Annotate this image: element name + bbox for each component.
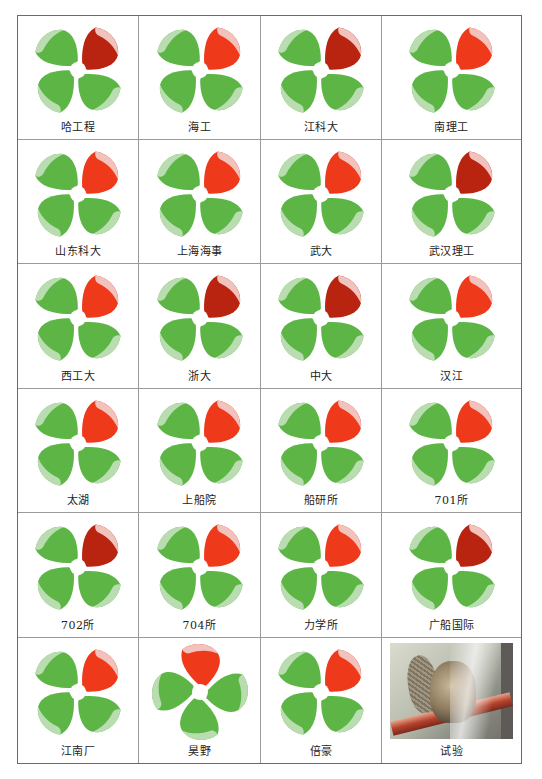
hub-icon	[70, 684, 86, 700]
hub-icon	[444, 559, 460, 575]
cell-label: 广船国际	[382, 616, 521, 632]
grid-cell: 浙大	[139, 264, 261, 389]
hub-icon	[444, 62, 460, 78]
propeller-icon	[269, 20, 373, 120]
hub-icon	[444, 435, 460, 451]
cell-label: 西工大	[18, 367, 138, 383]
hub-icon	[313, 684, 329, 700]
grid-cell: 哈工程	[18, 16, 139, 140]
grid-cell: 江科大	[261, 16, 382, 140]
propeller-icon	[26, 393, 130, 493]
propeller-icon	[269, 393, 373, 493]
propeller-icon	[400, 393, 504, 493]
hub-icon	[313, 435, 329, 451]
grid-cell: 701所	[382, 389, 521, 513]
hub-icon	[313, 559, 329, 575]
propeller-icon	[400, 20, 504, 120]
propeller-icon	[26, 517, 130, 617]
hub-icon	[192, 559, 208, 575]
cell-label: 船研所	[261, 491, 381, 507]
cell-label: 力学所	[261, 616, 381, 632]
propeller-comparison-grid: 哈工程 海工 江科大 南理工 山东科大 上海海事 武大 武汉理工 西工大 浙大 …	[17, 15, 522, 764]
propeller-icon	[26, 642, 130, 742]
grid-cell: 广船国际	[382, 513, 521, 638]
hub-icon	[192, 186, 208, 202]
propeller-icon	[269, 517, 373, 617]
cell-label: 武汉理工	[382, 242, 521, 258]
grid-cell: 江南厂	[18, 638, 139, 763]
propeller-icon	[148, 20, 252, 120]
hub-icon	[70, 559, 86, 575]
hub-icon	[313, 186, 329, 202]
cell-label: 704所	[139, 616, 260, 632]
hub-icon	[444, 186, 460, 202]
hub-icon	[192, 435, 208, 451]
grid-cell: 上船院	[139, 389, 261, 513]
propeller-icon	[400, 144, 504, 244]
propeller-icon	[26, 144, 130, 244]
propeller-icon	[26, 268, 130, 368]
cell-label: 中大	[261, 367, 381, 383]
grid-cell: 倍豪	[261, 638, 382, 763]
cell-label: 汉江	[382, 367, 521, 383]
propeller-icon	[269, 642, 373, 742]
cell-label: 701所	[382, 491, 521, 507]
hub-icon	[192, 62, 208, 78]
propeller-icon	[148, 642, 252, 742]
cell-label: 倍豪	[261, 742, 381, 758]
cell-label: 上海海事	[139, 242, 260, 258]
hub-icon	[70, 310, 86, 326]
propeller-icon	[269, 144, 373, 244]
cell-label: 昊野	[139, 742, 260, 758]
cell-label: 海工	[139, 118, 260, 134]
grid-cell: 武大	[261, 140, 382, 264]
hub-icon	[192, 684, 208, 700]
grid-cell: 太湖	[18, 389, 139, 513]
cell-label: 太湖	[18, 491, 138, 507]
propeller-icon	[269, 268, 373, 368]
propeller-icon	[148, 144, 252, 244]
test-photo	[390, 643, 513, 739]
hub-icon	[313, 62, 329, 78]
cell-label: 试验	[382, 742, 521, 758]
propeller-icon	[400, 268, 504, 368]
grid-cell: 武汉理工	[382, 140, 521, 264]
grid-cell: 力学所	[261, 513, 382, 638]
grid-cell: 704所	[139, 513, 261, 638]
hub-icon	[313, 310, 329, 326]
grid-cell: 西工大	[18, 264, 139, 389]
cell-label: 浙大	[139, 367, 260, 383]
propeller-icon	[26, 20, 130, 120]
grid-cell: 船研所	[261, 389, 382, 513]
cell-label: 南理工	[382, 118, 521, 134]
hub-icon	[444, 310, 460, 326]
grid-cell: 昊野	[139, 638, 261, 763]
grid-cell: 上海海事	[139, 140, 261, 264]
hub-icon	[70, 435, 86, 451]
hub-icon	[70, 62, 86, 78]
grid-cell: 汉江	[382, 264, 521, 389]
propeller-icon	[148, 393, 252, 493]
grid-cell: 试验	[382, 638, 521, 763]
grid-cell: 海工	[139, 16, 261, 140]
cell-label: 江南厂	[18, 742, 138, 758]
grid-cell: 中大	[261, 264, 382, 389]
cell-label: 702所	[18, 616, 138, 632]
propeller-icon	[148, 268, 252, 368]
grid-cell: 南理工	[382, 16, 521, 140]
cell-label: 哈工程	[18, 118, 138, 134]
cell-label: 武大	[261, 242, 381, 258]
propeller-icon	[400, 517, 504, 617]
cell-label: 江科大	[261, 118, 381, 134]
propeller-icon	[148, 517, 252, 617]
hub-icon	[192, 310, 208, 326]
hub-icon	[70, 186, 86, 202]
grid-cell: 山东科大	[18, 140, 139, 264]
cell-label: 山东科大	[18, 242, 138, 258]
grid-cell: 702所	[18, 513, 139, 638]
cell-label: 上船院	[139, 491, 260, 507]
